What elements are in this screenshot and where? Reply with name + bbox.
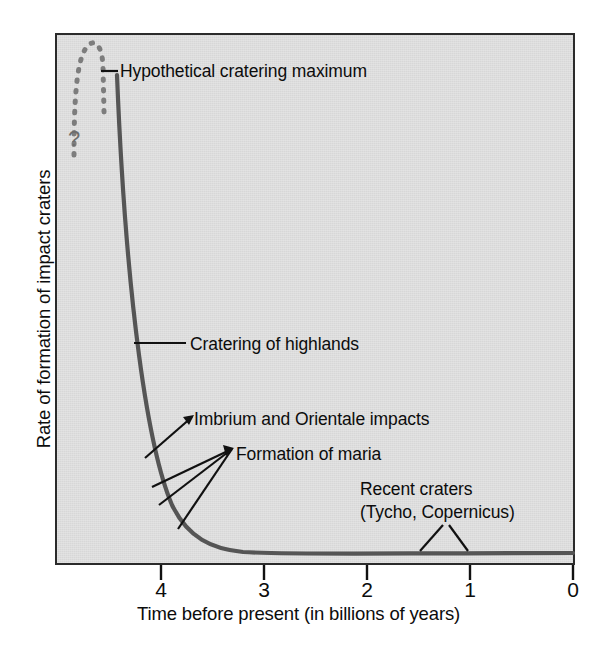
annotation-cratering-of-highlands: Cratering of highlands bbox=[190, 333, 359, 356]
y-axis-title: Rate of formation of impact craters bbox=[33, 49, 55, 569]
annotation-question-mark: ? bbox=[68, 126, 80, 152]
x-axis-title: Time before present (in billions of year… bbox=[0, 603, 597, 625]
annotation-hypothetical-maximum: Hypothetical cratering maximum bbox=[120, 60, 367, 83]
x-tick-label-2: 2 bbox=[352, 578, 382, 602]
x-tick-label-4: 4 bbox=[146, 578, 176, 602]
cratering-rate-figure: Hypothetical cratering maximum Cratering… bbox=[0, 0, 597, 646]
annotation-recent-craters: Recent craters (Tycho, Copernicus) bbox=[360, 478, 560, 524]
plot-graphics bbox=[0, 0, 597, 646]
annotation-recent-craters-line2: (Tycho, Copernicus) bbox=[360, 501, 560, 524]
x-tick-label-1: 1 bbox=[455, 578, 485, 602]
annotation-imbrium-orientale-impacts: Imbrium and Orientale impacts bbox=[194, 408, 429, 431]
x-tick-label-0: 0 bbox=[558, 578, 588, 602]
annotation-formation-of-maria: Formation of maria bbox=[236, 443, 381, 466]
leader-lines-recent bbox=[420, 525, 468, 551]
x-tick-label-3: 3 bbox=[249, 578, 279, 602]
annotation-recent-craters-line1: Recent craters bbox=[360, 478, 560, 501]
